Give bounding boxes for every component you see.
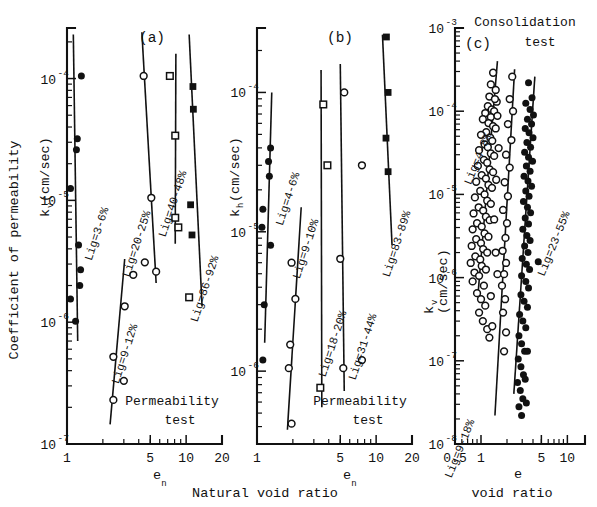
series-annotation-label: Lig=20-25% xyxy=(120,209,154,279)
data-point xyxy=(479,318,486,325)
series-annotation-label: Lig=9-10% xyxy=(290,217,322,280)
data-point xyxy=(499,282,506,289)
data-point xyxy=(383,34,390,41)
panel-c-y-axis-title: kv(cm/sec) xyxy=(422,249,451,314)
data-point xyxy=(190,83,197,90)
data-point xyxy=(524,249,531,256)
series-annotation-label: Lig=31-44% xyxy=(346,312,380,382)
panel-b-xticks: 151020 xyxy=(253,435,420,466)
data-point xyxy=(517,291,524,298)
xtick-label: 1 xyxy=(63,451,71,466)
data-point xyxy=(508,137,515,144)
ytick-label: 10 xyxy=(428,355,444,370)
data-point xyxy=(258,224,265,231)
panel-c-id: (c) xyxy=(465,36,491,52)
data-point xyxy=(175,224,182,231)
series-lig-23-55 xyxy=(514,77,542,419)
data-point xyxy=(480,282,487,289)
data-point xyxy=(484,249,491,256)
panel-c-y-symbol: k xyxy=(422,306,437,314)
data-point xyxy=(529,94,536,101)
data-point xyxy=(527,168,534,175)
series-annotation-label: Lig=3-6% xyxy=(82,206,111,263)
xtick-label: 10 xyxy=(560,451,576,466)
ytick-label: 10 xyxy=(40,316,56,331)
data-point xyxy=(341,89,348,96)
data-point xyxy=(501,271,508,278)
trend-line xyxy=(73,34,77,341)
panel-c-y-units: (cm/sec) xyxy=(436,249,451,314)
series-annotation-label: Lig=40-48% xyxy=(156,169,190,239)
data-point xyxy=(500,207,507,214)
data-point xyxy=(527,144,534,151)
data-point xyxy=(478,296,485,303)
data-point xyxy=(67,185,74,192)
data-point xyxy=(167,73,174,80)
data-point xyxy=(484,159,491,166)
series-annotation-label: Lig=83-89% xyxy=(380,209,414,279)
ytick-label: 10 xyxy=(40,73,56,88)
series-lig-9-18 xyxy=(495,69,517,415)
data-point xyxy=(492,87,499,94)
data-point xyxy=(505,121,512,128)
panel-a-x-subscript: n xyxy=(161,479,166,489)
data-point xyxy=(490,69,497,76)
data-point xyxy=(190,106,197,113)
data-point xyxy=(383,135,390,142)
data-point xyxy=(493,176,500,183)
ytick-label: 10 xyxy=(428,188,444,203)
panel-a-x-symbol: e xyxy=(153,468,161,483)
data-point xyxy=(515,332,522,339)
data-point xyxy=(469,278,476,285)
xtick-label: 10 xyxy=(178,451,194,466)
data-point xyxy=(529,158,536,165)
data-point xyxy=(516,311,523,318)
data-point xyxy=(285,365,292,372)
data-point xyxy=(337,255,344,262)
data-point xyxy=(503,260,510,267)
ytick-exponent: -5 xyxy=(58,189,70,200)
panel-a-annotation-line1: Permeability xyxy=(125,394,219,409)
data-point xyxy=(517,387,524,394)
data-point xyxy=(503,329,510,336)
ytick-exponent: -4 xyxy=(248,81,260,92)
data-point xyxy=(491,216,498,223)
data-point xyxy=(292,295,299,302)
xtick-label: 20 xyxy=(214,451,230,466)
data-point xyxy=(140,73,147,80)
data-point xyxy=(267,144,274,151)
data-point xyxy=(503,151,510,158)
ytick-label: 10 xyxy=(428,105,444,120)
data-point xyxy=(505,193,512,200)
data-point xyxy=(476,272,483,279)
panel-b-id: (b) xyxy=(327,30,353,46)
data-point xyxy=(517,363,524,370)
series-lig-4-8 xyxy=(467,61,502,341)
data-point xyxy=(510,108,517,115)
data-point xyxy=(478,223,485,230)
data-point xyxy=(486,334,493,341)
outer-y-axis-title: Coefficient of permeability xyxy=(7,141,22,360)
trend-line xyxy=(142,32,156,283)
series-lig-4-6 xyxy=(258,92,274,363)
data-point xyxy=(121,303,128,310)
data-point xyxy=(385,89,392,96)
data-point xyxy=(259,206,266,213)
data-point xyxy=(267,242,274,249)
data-point xyxy=(518,272,525,279)
xtick-label: 20 xyxy=(404,451,420,466)
data-point xyxy=(522,324,529,331)
data-point xyxy=(75,242,82,249)
data-point xyxy=(153,268,160,275)
series-lig-20-25 xyxy=(140,32,159,283)
data-point xyxy=(469,226,476,233)
data-point xyxy=(501,179,508,186)
data-point xyxy=(490,169,497,176)
data-point xyxy=(522,376,529,383)
panel-b-y-axis-title: kh(cm/sec) xyxy=(228,137,246,217)
data-point xyxy=(287,341,294,348)
data-point xyxy=(518,340,525,347)
data-point xyxy=(72,318,79,325)
data-point xyxy=(492,125,499,132)
panel-c-x-symbol: e xyxy=(514,467,522,482)
